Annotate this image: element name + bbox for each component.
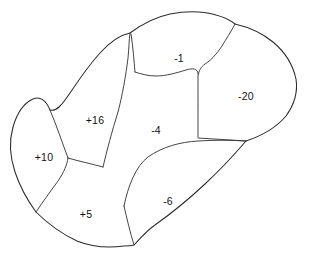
region-label-minus-4: -4 <box>151 124 161 136</box>
region-map-figure: +10 +16 +5 -1 -4 -6 -20 <box>0 0 309 261</box>
region-label-plus-5: +5 <box>80 208 92 220</box>
region-label-plus-10: +10 <box>35 151 53 163</box>
region-map-svg: +10 +16 +5 -1 -4 -6 -20 <box>0 0 309 261</box>
region-label-minus-1: -1 <box>174 52 184 64</box>
region-label-plus-16: +16 <box>86 114 104 126</box>
region-label-minus-6: -6 <box>163 195 173 207</box>
region-label-minus-20: -20 <box>238 90 254 102</box>
